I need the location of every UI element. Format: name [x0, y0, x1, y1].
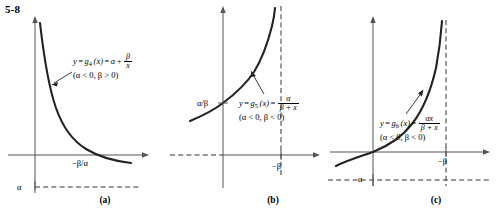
- horizontal-asymptote-label-c: α: [358, 174, 362, 184]
- panel-b: y = g5 (x) = α β + x (α < 0, β < 0) α/β …: [160, 0, 335, 210]
- asymptote-label-a: α: [17, 182, 21, 192]
- x-intercept-label-a: −β/α: [72, 158, 88, 168]
- vertical-asymptote-label-c: −β: [438, 156, 447, 166]
- panel-a-leader: [0, 0, 170, 210]
- sublabel-c: (c): [416, 195, 456, 205]
- leader-line-c: [406, 92, 422, 114]
- leader-arrow-b: [251, 71, 256, 77]
- leader-line-a: [54, 72, 72, 83]
- panel-c-leader: [320, 0, 501, 210]
- vertical-asymptote-label-b: −β: [272, 161, 281, 171]
- leader-arrow-c: [418, 90, 424, 97]
- panel-a: y = g4 (x) = α + β x (α < 0, β > 0) −β/α…: [0, 0, 170, 210]
- y-intercept-label-b: α/β: [197, 98, 208, 108]
- sublabel-a: (a): [85, 195, 125, 205]
- panel-c: y = g6 (x) = αx β + x (α < 0, β < 0) −β …: [320, 0, 501, 210]
- figure-container: 5-8 y = g4 (x) = α +: [0, 0, 501, 210]
- panel-b-leader: [160, 0, 335, 210]
- sublabel-b: (b): [253, 195, 293, 205]
